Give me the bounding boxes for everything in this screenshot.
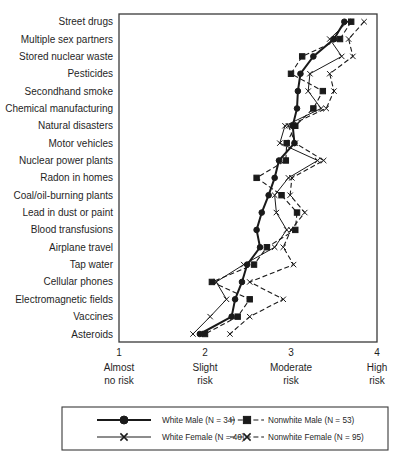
x-tick-value: 1 xyxy=(116,347,122,358)
category-label: Multiple sex partners xyxy=(21,34,113,45)
category-label: Coal/oil-burning plants xyxy=(13,190,113,201)
legend-box xyxy=(62,407,388,450)
circle-marker xyxy=(239,279,245,285)
legend-label: Nonwhite Male (N = 53) xyxy=(268,416,355,425)
circle-marker xyxy=(232,297,238,303)
x-tick-label-line2: risk xyxy=(197,375,214,386)
square-marker xyxy=(288,71,293,76)
category-label: Chemical manufacturing xyxy=(5,103,113,114)
circle-marker xyxy=(266,192,272,198)
circle-marker xyxy=(331,36,337,42)
legend-label: Nonwhite Female (N = 95) xyxy=(268,433,364,442)
category-label: Natural disasters xyxy=(38,120,113,131)
category-label: Tap water xyxy=(70,259,114,270)
category-label: Nuclear power plants xyxy=(19,155,113,166)
square-marker xyxy=(293,227,298,232)
x-marker xyxy=(272,245,277,250)
square-marker xyxy=(243,416,250,423)
x-tick-label-line1: High xyxy=(367,362,388,373)
square-marker xyxy=(279,193,284,198)
x-marker xyxy=(281,297,286,302)
category-label: Pesticides xyxy=(67,68,113,79)
circle-marker xyxy=(295,88,301,94)
square-marker xyxy=(254,175,259,180)
x-tick-label-line2: risk xyxy=(283,375,300,386)
risk-chart-svg: Street drugsMultiple sex partnersStored … xyxy=(0,0,393,452)
series-nonwhite-female xyxy=(227,19,367,337)
circle-marker xyxy=(311,54,317,60)
x-marker xyxy=(227,331,232,336)
x-tick-value: 2 xyxy=(202,347,208,358)
legend-entry-nonwhite-male: Nonwhite Male (N = 53) xyxy=(230,416,355,425)
x-marker xyxy=(247,279,252,284)
x-marker xyxy=(282,123,287,128)
series-nonwhite-male xyxy=(202,19,354,337)
series-line-white-female xyxy=(193,22,348,334)
circle-marker xyxy=(244,262,250,268)
x-marker xyxy=(291,262,296,267)
category-label: Motor vehicles xyxy=(49,138,113,149)
circle-marker xyxy=(342,19,348,25)
x-marker xyxy=(324,106,329,111)
category-label: Radon in homes xyxy=(40,172,113,183)
y-axis-labels: Street drugsMultiple sex partnersStored … xyxy=(5,16,113,339)
x-marker xyxy=(361,19,366,24)
category-label: Stored nuclear waste xyxy=(19,51,113,62)
x-marker xyxy=(247,314,252,319)
square-marker xyxy=(235,314,240,319)
circle-marker xyxy=(254,227,260,233)
category-label: Blood transfusions xyxy=(31,224,113,235)
square-marker xyxy=(283,158,288,163)
x-tick-label-line2: risk xyxy=(369,375,386,386)
circle-marker xyxy=(292,140,298,146)
x-marker xyxy=(190,331,195,336)
x-marker xyxy=(207,314,212,319)
series-line-nonwhite-male xyxy=(205,22,351,334)
category-label: Asteroids xyxy=(71,329,113,340)
category-label: Secondhand smoke xyxy=(25,86,114,97)
square-marker xyxy=(251,262,256,267)
x-marker xyxy=(302,210,307,215)
x-marker xyxy=(315,158,320,163)
x-tick-label-line1: Almost xyxy=(104,362,135,373)
x-tick-value: 3 xyxy=(288,347,294,358)
square-marker xyxy=(294,210,299,215)
square-marker xyxy=(311,106,316,111)
square-marker xyxy=(299,54,304,59)
square-marker xyxy=(264,245,269,250)
circle-marker xyxy=(197,331,203,337)
circle-marker xyxy=(290,123,296,129)
square-marker xyxy=(320,88,325,93)
circle-marker xyxy=(259,210,265,216)
circle-marker xyxy=(294,106,300,112)
x-marker xyxy=(224,297,229,302)
category-label: Lead in dust or paint xyxy=(22,207,113,218)
x-marker xyxy=(281,245,286,250)
series-line-nonwhite-female xyxy=(230,22,364,334)
legend-entry-nonwhite-female: Nonwhite Female (N = 95) xyxy=(230,433,364,442)
circle-marker xyxy=(229,314,235,320)
square-marker xyxy=(337,36,342,41)
x-marker xyxy=(284,227,289,232)
category-label: Vaccines xyxy=(73,311,113,322)
x-tick-label-line1: Slight xyxy=(192,362,217,373)
x-marker xyxy=(286,175,291,180)
x-tick-value: 4 xyxy=(374,347,380,358)
legend-label: White Male (N = 34) xyxy=(162,416,235,425)
category-label: Cellular phones xyxy=(44,276,114,287)
circle-marker xyxy=(298,71,304,77)
category-label: Electromagnetic fields xyxy=(15,294,113,305)
legend-entry-white-female: White Female (N = 40) xyxy=(97,433,245,442)
series-white-female xyxy=(190,19,350,337)
circle-marker xyxy=(272,175,278,181)
legend-entry-white-male: White Male (N = 34) xyxy=(97,416,235,425)
x-marker xyxy=(277,140,282,145)
circle-marker xyxy=(120,416,128,424)
risk-perception-chart: Street drugsMultiple sex partnersStored … xyxy=(0,0,393,452)
x-axis: 1Almostno risk2Slightrisk3Moderaterisk4H… xyxy=(104,347,388,386)
category-label: Street drugs xyxy=(59,16,113,27)
plot-area xyxy=(119,14,377,342)
circle-marker xyxy=(257,244,263,250)
x-marker xyxy=(321,158,326,163)
series-white-male xyxy=(197,19,347,337)
